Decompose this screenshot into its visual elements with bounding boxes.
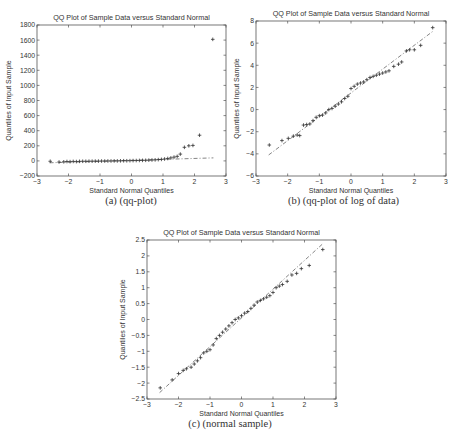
y-tick-label: 1.5: [136, 268, 146, 275]
plot-frame: [256, 21, 446, 176]
y-tick-label: 4: [250, 62, 254, 69]
y-tick-label: 1000: [20, 82, 35, 89]
qq-plot-b: QQ Plot of Sample Data versus Standard N…: [229, 0, 458, 200]
x-tick-label: 3: [224, 178, 228, 185]
y-axis-label: Quantiles of Input Sample: [233, 58, 241, 139]
qq-plot-a: QQ Plot of Sample Data versus Standard N…: [0, 0, 229, 200]
chart-b: QQ Plot of Sample Data versus Standard N…: [229, 0, 458, 215]
y-tick-label: 0: [31, 157, 35, 164]
caption-c: (c) (normal sample): [110, 418, 350, 429]
x-axis-label: Standard Normal Quantiles: [89, 187, 174, 195]
y-tick-label: 1600: [20, 37, 35, 44]
x-tick-label: 2: [303, 401, 307, 408]
y-tick-label: 8: [250, 17, 254, 24]
x-tick-label: 0: [349, 178, 353, 185]
y-tick-label: 800: [24, 97, 36, 104]
x-tick-label: −2: [175, 401, 183, 408]
qq-plot-c: QQ Plot of Sample Data versus Standard N…: [110, 215, 350, 420]
chart-a: QQ Plot of Sample Data versus Standard N…: [0, 0, 229, 215]
y-tick-label: 400: [24, 127, 36, 134]
y-tick-label: −200: [20, 172, 36, 179]
x-tick-label: 2: [412, 178, 416, 185]
x-tick-label: −1: [96, 178, 104, 185]
caption-b: (b) (qq-plot of log of data): [229, 195, 458, 206]
y-tick-label: 0.5: [136, 300, 146, 307]
y-tick-label: 1: [141, 284, 145, 291]
data-points: [48, 38, 214, 164]
x-tick-label: 1: [381, 178, 385, 185]
y-tick-label: 0: [141, 316, 145, 323]
x-tick-label: 0: [130, 178, 134, 185]
y-tick-label: −2.5: [132, 395, 146, 402]
y-tick-label: −2: [137, 380, 145, 387]
y-tick-label: 1800: [20, 21, 35, 28]
data-points: [268, 26, 435, 147]
chart-title: QQ Plot of Sample Data versus Standard N…: [53, 13, 210, 22]
y-tick-label: −4: [246, 150, 254, 157]
y-tick-label: −1.5: [132, 364, 146, 371]
y-tick-label: −0.5: [132, 332, 146, 339]
plot-frame: [37, 25, 226, 176]
x-tick-label: 3: [334, 401, 338, 408]
chart-title: QQ Plot of Sample Data versus Standard N…: [163, 228, 320, 237]
y-tick-label: −2: [246, 128, 254, 135]
y-tick-label: 2: [250, 84, 254, 91]
chart-title: QQ Plot of Sample Data versus Standard N…: [273, 9, 430, 18]
x-tick-label: 2: [193, 178, 197, 185]
y-axis-label: Quantiles of Input Sample: [5, 60, 13, 141]
x-tick-label: −2: [65, 178, 73, 185]
y-tick-label: 2: [141, 252, 145, 259]
y-tick-label: 600: [24, 112, 36, 119]
x-tick-label: −1: [206, 401, 214, 408]
y-tick-label: 2.5: [136, 236, 146, 243]
x-tick-label: 3: [444, 178, 448, 185]
y-tick-label: 0: [250, 106, 254, 113]
y-tick-label: −6: [246, 172, 254, 179]
y-tick-label: 1400: [20, 52, 35, 59]
y-tick-label: 1200: [20, 67, 35, 74]
x-axis-label: Standard Normal Quantiles: [199, 410, 284, 418]
data-points: [158, 248, 324, 390]
chart-c: QQ Plot of Sample Data versus Standard N…: [110, 215, 350, 444]
x-tick-label: 0: [240, 401, 244, 408]
x-axis-label: Standard Normal Quantiles: [309, 187, 394, 195]
y-tick-label: 6: [250, 40, 254, 47]
x-tick-label: −2: [284, 178, 292, 185]
y-tick-label: 200: [24, 142, 36, 149]
y-tick-label: −1: [137, 348, 145, 355]
x-tick-label: 1: [271, 401, 275, 408]
plot-frame: [147, 240, 336, 399]
y-axis-label: Quantiles of Input Sample: [119, 279, 127, 360]
x-tick-label: −1: [315, 178, 323, 185]
caption-a: (a) (qq-plot): [0, 195, 262, 206]
x-tick-label: 1: [161, 178, 165, 185]
